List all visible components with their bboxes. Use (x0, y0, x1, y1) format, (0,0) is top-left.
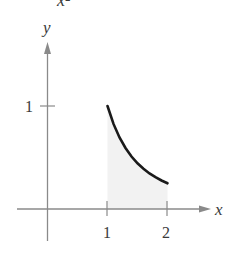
x-axis-arrow-icon (199, 206, 211, 213)
x-tick-label-1: 1 (103, 224, 111, 241)
x-axis-label: x (214, 200, 223, 219)
caption-fragment: x² (56, 0, 71, 10)
y-axis-arrow-icon (44, 42, 51, 54)
x-tick-label-2: 2 (162, 224, 170, 241)
plot-canvas: x² 1 2 1 x y (0, 0, 236, 257)
y-tick-label-1: 1 (25, 98, 33, 115)
shaded-area (108, 106, 168, 209)
y-axis-label: y (41, 18, 51, 37)
